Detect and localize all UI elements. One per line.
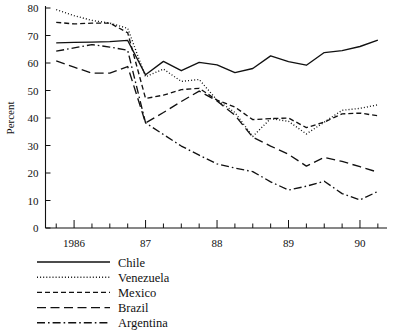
x-tick-label: 88 [212, 237, 224, 249]
series-line-mexico [56, 22, 378, 127]
legend: ChileVenezuelaMexicoBrazilArgentina [37, 256, 170, 331]
series-line-venezuela [56, 10, 378, 137]
y-tick-label: 80 [28, 2, 40, 14]
y-tick-label: 0 [33, 222, 39, 234]
y-tick-label: 20 [28, 167, 40, 179]
x-tick-label: 90 [354, 237, 366, 249]
y-tick-label: 60 [28, 57, 40, 69]
series-group [56, 10, 378, 200]
series-line-chile [56, 40, 378, 75]
series-line-brazil [56, 61, 378, 172]
x-tick-label: 87 [140, 237, 152, 249]
x-tick-label: 89 [283, 237, 295, 249]
y-tick-label: 10 [28, 195, 40, 207]
y-tick-label: 70 [28, 30, 40, 42]
y-axis-title: Percent [4, 102, 16, 135]
legend-label-venezuela: Venezuela [118, 271, 170, 285]
series-line-argentina [56, 45, 378, 200]
legend-label-argentina: Argentina [118, 316, 168, 330]
legend-label-mexico: Mexico [118, 286, 156, 300]
y-tick-label: 40 [28, 112, 40, 124]
y-tick-label: 50 [28, 85, 40, 97]
chart-container: 01020304050607080Percent198687888990Chil… [0, 0, 397, 333]
line-chart: 01020304050607080Percent198687888990Chil… [0, 0, 397, 333]
x-axis-ticks: 198687888990 [56, 220, 378, 249]
legend-label-chile: Chile [118, 256, 146, 270]
x-tick-label: 1986 [63, 237, 86, 249]
y-axis-ticks: 01020304050607080 [28, 2, 51, 234]
y-tick-label: 30 [28, 140, 40, 152]
legend-label-brazil: Brazil [118, 301, 149, 315]
